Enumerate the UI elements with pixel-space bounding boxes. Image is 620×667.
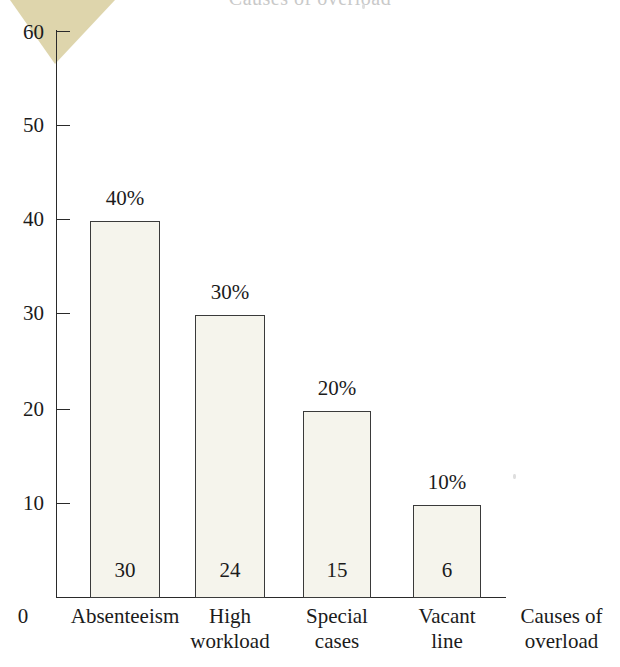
y-axis-label-10: 10 — [2, 493, 44, 514]
bar-value-label-special-cases: 20% — [303, 378, 371, 399]
bar-count-label-vacant-line: 6 — [413, 560, 481, 581]
y-axis-tick-50 — [57, 125, 70, 126]
cut-off-title-remnant: Causes of overload — [0, 0, 620, 14]
y-axis-label-50: 50 — [2, 115, 44, 136]
y-axis-label-20: 20 — [2, 399, 44, 420]
x-axis-category-special-cases-line2: cases — [287, 629, 387, 654]
bar-count-label-high-workload: 24 — [195, 560, 265, 581]
bar-count-label-special-cases: 15 — [303, 560, 371, 581]
y-axis-tick-30 — [57, 313, 70, 314]
y-axis-tick-60 — [57, 31, 70, 32]
bar-count-label-absenteeism: 30 — [90, 560, 160, 581]
x-axis-category-absenteeism: Absenteeism — [50, 604, 200, 629]
chart-canvas: Causes of overload 60 50 40 30 20 10 0 4… — [0, 0, 620, 667]
bar-high-workload[interactable] — [195, 315, 265, 598]
title-remnant-text: Causes of overload — [229, 0, 391, 10]
x-axis-category-vacant-line-line1: Vacant — [397, 604, 497, 629]
bar-vacant-line[interactable] — [413, 505, 481, 598]
y-axis-label-0: 0 — [8, 604, 38, 629]
bar-value-label-high-workload: 30% — [195, 282, 265, 303]
x-axis-category-special-cases-line1: Special — [287, 604, 387, 629]
bar-value-label-vacant-line: 10% — [413, 472, 481, 493]
x-axis-category-high-workload-line2: workload — [180, 629, 280, 654]
x-axis-category-vacant-line-line2: line — [397, 629, 497, 654]
bar-value-label-absenteeism: 40% — [90, 188, 160, 209]
scan-speck — [513, 474, 516, 479]
scan-speck — [362, 4, 365, 9]
y-axis-tick-10 — [57, 503, 70, 504]
x-axis-title-line1: Causes of — [503, 604, 620, 629]
y-axis-label-40: 40 — [2, 209, 44, 230]
bar-absenteeism[interactable] — [90, 221, 160, 598]
x-axis-title-line2: overload — [503, 629, 620, 654]
y-axis-line — [56, 30, 57, 598]
x-axis-category-high-workload-line1: High — [180, 604, 280, 629]
y-axis-tick-20 — [57, 409, 70, 410]
y-axis-label-30: 30 — [2, 303, 44, 324]
y-axis-tick-40 — [57, 219, 70, 220]
y-axis-label-60: 60 — [2, 22, 44, 43]
